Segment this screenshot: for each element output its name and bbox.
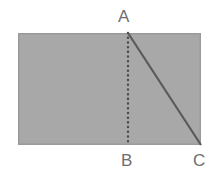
vertex-label-b: B xyxy=(121,152,132,169)
geometry-figure-svg xyxy=(0,0,214,180)
rectangle-shape xyxy=(19,34,201,145)
vertex-label-c: C xyxy=(193,152,205,169)
geometry-figure-canvas: A B C xyxy=(0,0,214,180)
vertex-label-a: A xyxy=(118,8,129,25)
